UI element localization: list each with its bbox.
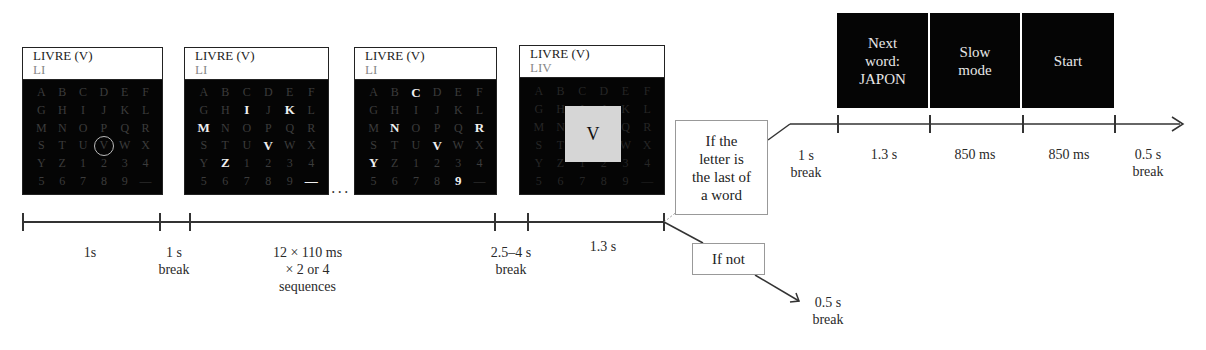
duration-label: 0.5 sbreak (804, 294, 852, 328)
start-screen: Start (1022, 13, 1114, 108)
tick (1022, 115, 1024, 133)
duration-label: 1 sbreak (782, 147, 830, 181)
slow-mode-screen: Slow mode (930, 13, 1020, 108)
condition-if-not: If not (692, 243, 765, 275)
duration-label: 0.5 sbreak (1120, 146, 1176, 180)
tick (929, 115, 931, 133)
duration-label: 850 ms (1030, 146, 1108, 163)
duration-label: 1.3 s (850, 146, 918, 163)
duration-label: 850 ms (936, 146, 1014, 163)
next-word-screen: Next word: JAPON (837, 13, 928, 108)
tick (837, 115, 839, 133)
condition-last-letter: If the letter is the last of a word (675, 120, 768, 215)
tick (1114, 115, 1116, 133)
